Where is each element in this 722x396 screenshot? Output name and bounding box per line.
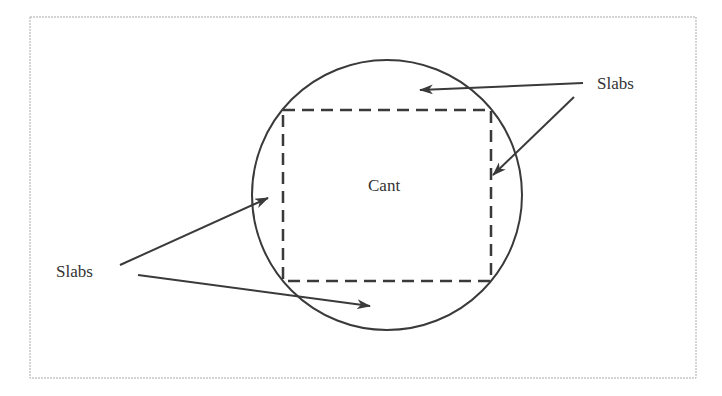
cant-label: Cant xyxy=(368,176,400,195)
frame-border xyxy=(30,17,696,378)
slabs-label-top-right: Slabs xyxy=(597,74,634,93)
arrow-bottom-slab xyxy=(138,275,370,306)
log-cut-diagram: Cant Slabs Slabs xyxy=(0,0,722,396)
slabs-label-left: Slabs xyxy=(56,262,93,281)
diagram-canvas: Cant Slabs Slabs xyxy=(0,0,722,396)
arrow-top-slab xyxy=(420,83,583,90)
arrow-right-slab xyxy=(493,97,574,175)
cant-rectangle xyxy=(283,110,491,281)
log-circle xyxy=(252,60,522,330)
arrow-left-slab xyxy=(120,198,268,265)
